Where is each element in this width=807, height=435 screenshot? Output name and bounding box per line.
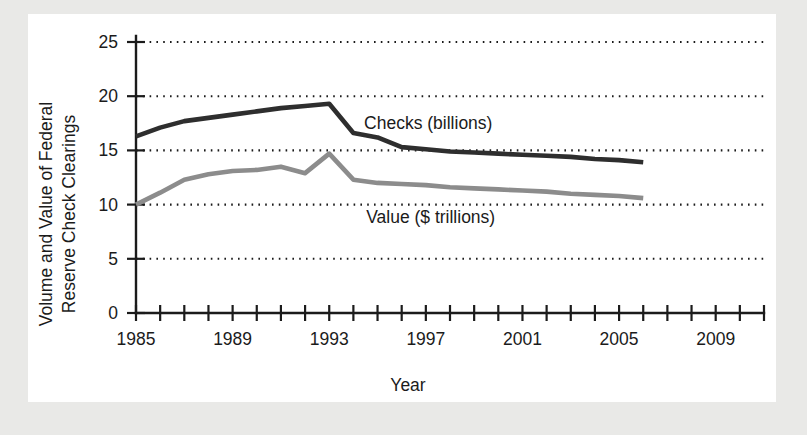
x-tick-label-1985: 1985 (117, 329, 156, 349)
y-axis-title-line-1: Volume and Value of Federal (36, 102, 56, 326)
series-line-1 (136, 154, 643, 205)
x-tick-label-2009: 2009 (696, 329, 735, 349)
y-axis-title-line-2: Reserve Check Clearings (59, 115, 79, 314)
chart-panel: 0510152025 1985198919931997200120052009 … (28, 14, 776, 402)
x-tick-label-1993: 1993 (310, 329, 349, 349)
y-axis (127, 36, 145, 313)
x-axis-title: Year (390, 375, 426, 395)
series-label-0: Checks (billions) (364, 113, 492, 133)
y-tick-label-15: 15 (99, 140, 118, 160)
y-tick-labels: 0510152025 (99, 32, 119, 323)
series-annotations: Checks (billions)Value ($ trillions) (364, 113, 495, 227)
series-label-1: Value ($ trillions) (366, 207, 495, 227)
x-tick-label-1997: 1997 (406, 329, 445, 349)
x-tick-label-2005: 2005 (600, 329, 639, 349)
figure-root: 0510152025 1985198919931997200120052009 … (0, 0, 807, 435)
y-tick-label-25: 25 (99, 32, 118, 52)
x-tick-label-1989: 1989 (213, 329, 252, 349)
y-tick-label-5: 5 (108, 249, 118, 269)
y-tick-label-20: 20 (99, 86, 119, 106)
x-axis (136, 305, 764, 321)
x-tick-labels: 1985198919931997200120052009 (117, 329, 736, 349)
y-tick-label-0: 0 (108, 303, 118, 323)
line-chart: 0510152025 1985198919931997200120052009 … (28, 14, 776, 402)
x-tick-label-2001: 2001 (503, 329, 542, 349)
y-tick-label-10: 10 (99, 195, 119, 215)
